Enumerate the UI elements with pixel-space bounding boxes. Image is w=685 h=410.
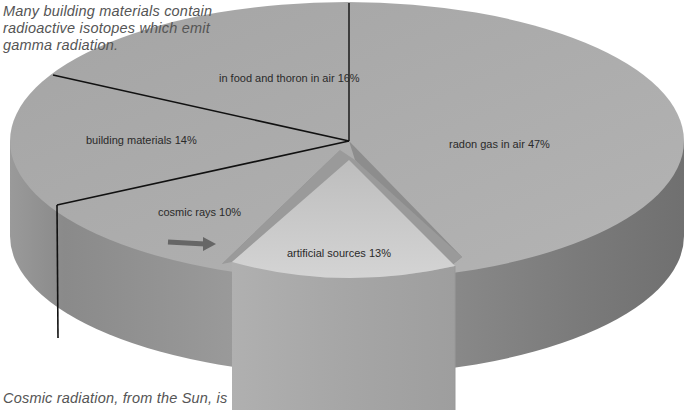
pie-chart-3d [0,0,685,410]
label-artificial-sources: artificial sources 13% [287,247,391,259]
caption-cosmic-radiation: Cosmic radiation, from the Sun, is [3,390,243,407]
label-food-thoron: in food and thoron in air 16% [219,72,360,84]
label-building-materials: building materials 14% [86,134,197,146]
caption-building-materials: Many building materials contain radioact… [3,3,243,54]
divider-left-vertical [57,205,58,338]
label-radon-gas: radon gas in air 47% [449,138,550,150]
label-cosmic-rays: cosmic rays 10% [158,206,241,218]
wedge-artificial-side [232,262,455,410]
